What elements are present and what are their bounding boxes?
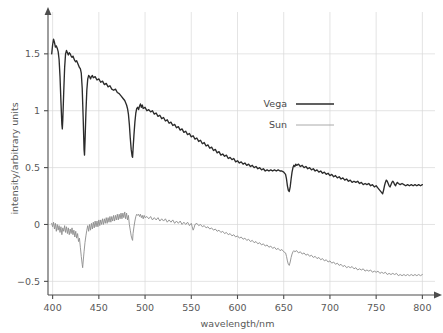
y-tick-label: 0 <box>34 219 40 230</box>
x-tick-label: 400 <box>44 302 62 313</box>
y-axis-title: intensity/arbitrary units <box>9 102 20 214</box>
legend-label-sun: Sun <box>269 119 287 130</box>
grid-lines <box>48 12 435 295</box>
y-tick-label: 0.5 <box>25 162 40 173</box>
x-tick-label: 500 <box>136 302 154 313</box>
y-tick-label: −0.5 <box>17 276 40 287</box>
series-line-vega <box>52 39 423 194</box>
series-line-sun <box>52 212 423 276</box>
x-axis-title: wavelength/nm <box>201 318 275 329</box>
x-tick-label: 700 <box>321 302 339 313</box>
x-tick-label: 450 <box>90 302 108 313</box>
chart-legend: VegaSun <box>264 98 334 130</box>
x-tick-label: 600 <box>228 302 246 313</box>
y-tick-label: 1.5 <box>25 48 40 59</box>
x-axis-arrow <box>434 292 442 299</box>
x-tick-label: 550 <box>182 302 200 313</box>
spectrum-chart: 400450500550600650700750800−0.500.511.5w… <box>0 0 443 333</box>
legend-label-vega: Vega <box>264 98 287 109</box>
x-tick-label: 800 <box>413 302 431 313</box>
chart-canvas: 400450500550600650700750800−0.500.511.5w… <box>0 0 443 333</box>
axes <box>44 7 442 299</box>
data-series <box>52 39 423 276</box>
y-tick-label: 1 <box>34 105 40 116</box>
tick-labels: 400450500550600650700750800−0.500.511.5w… <box>9 48 431 329</box>
x-tick-label: 650 <box>275 302 293 313</box>
y-axis-arrow <box>45 7 52 15</box>
x-tick-label: 750 <box>367 302 385 313</box>
